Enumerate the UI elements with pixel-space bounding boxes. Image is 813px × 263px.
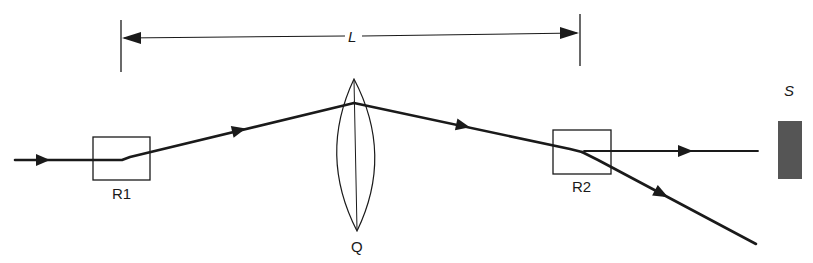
dimension-arrowhead-right-icon xyxy=(560,27,579,39)
optical-diagram: L R1 Q R2 S xyxy=(0,0,813,263)
r1-element xyxy=(93,137,150,180)
lens-label-q: Q xyxy=(351,238,363,255)
dimension-arrowhead-left-icon xyxy=(122,32,141,44)
ray-incident-to-lens xyxy=(15,103,354,160)
dimension-label-l: L xyxy=(348,28,356,45)
dimension-line-left xyxy=(124,36,345,38)
arrow-incident-icon xyxy=(36,154,50,166)
r2-label: R2 xyxy=(572,178,591,195)
screen-s xyxy=(778,121,802,179)
lens-q xyxy=(337,79,375,231)
ray-deflected xyxy=(582,152,756,244)
ray-arrowheads xyxy=(36,118,693,202)
beam-path xyxy=(15,103,758,244)
dimension-line-right xyxy=(362,33,577,36)
screen-label-s: S xyxy=(784,82,794,99)
arrow-deflected-icon xyxy=(652,185,671,203)
r1-label: R1 xyxy=(112,185,131,202)
arrow-lens-to-r2-icon xyxy=(455,118,471,133)
arrow-undeviated-icon xyxy=(678,145,693,157)
